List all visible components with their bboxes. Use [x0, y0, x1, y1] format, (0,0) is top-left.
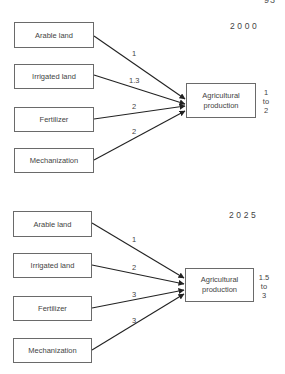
output-box-agricultural-production: Agricultural production	[186, 83, 256, 118]
range-high: 2	[259, 106, 273, 115]
year-label: 2000	[230, 21, 259, 31]
output-label-line2: production	[203, 101, 238, 111]
output-box-agricultural-production: Agricultural production	[185, 268, 254, 302]
weight-label: 1	[132, 235, 136, 244]
input-box-mechanization: Mechanization	[14, 148, 94, 173]
input-box-arable-land: Arable land	[14, 22, 94, 48]
range-low: 1.5	[256, 273, 272, 282]
weight-label: 3	[132, 290, 136, 299]
input-box-irrigated-land: Irrigated land	[13, 253, 92, 278]
range-to: to	[259, 97, 273, 106]
weight-label: 3	[132, 316, 136, 325]
weight-label: 1	[132, 49, 136, 58]
input-box-arable-land: Arable land	[13, 211, 92, 237]
output-range: 1.5 to 3	[256, 273, 272, 300]
range-to: to	[256, 282, 272, 291]
weight-label: 2	[132, 102, 136, 111]
output-label-line1: Agricultural	[201, 275, 239, 285]
weight-label: 1.3	[129, 76, 139, 85]
weight-label: 2	[132, 127, 136, 136]
output-label-line2: production	[202, 285, 237, 295]
input-box-fertilizer: Fertilizer	[14, 107, 94, 132]
input-box-mechanization: Mechanization	[13, 338, 92, 363]
weight-label: 2	[132, 263, 136, 272]
input-box-irrigated-land: Irrigated land	[14, 64, 94, 89]
range-high: 3	[256, 291, 272, 300]
output-label-line1: Agricultural	[202, 91, 240, 101]
input-box-fertilizer: Fertilizer	[13, 296, 92, 321]
output-range: 1 to 2	[259, 88, 273, 115]
year-label: 2025	[229, 210, 258, 220]
range-low: 1	[259, 88, 273, 97]
